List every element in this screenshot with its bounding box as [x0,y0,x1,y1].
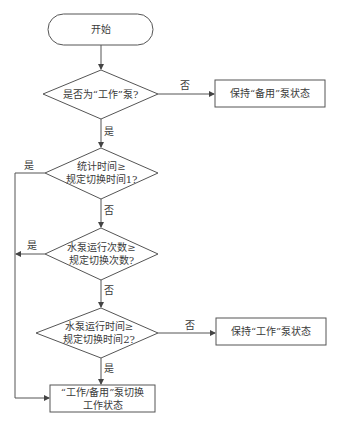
keep-working-label: 保持“工作”泵状态 [216,325,326,338]
run-count-line2: 规定切换次数? [45,254,158,267]
start-label: 开始 [48,23,153,36]
stat-time-line2: 规定切换时间1? [45,173,158,186]
stat-time-label: 统计时间≥ 规定切换时间1? [45,160,158,186]
switch-state-line1: “工作/备用”泵切换 [50,386,155,399]
edge-label-d3-yes: 是 [27,240,37,252]
run-time-label: 水泵运行时间≥ 规定切换时间2? [40,320,158,346]
is-working-pump-label: 是否为“工作”泵? [43,88,158,101]
run-time-line2: 规定切换时间2? [40,333,158,346]
edge-d2-yes [15,173,49,398]
run-count-label: 水泵运行次数≥ 规定切换次数? [45,241,158,267]
edge-label-d2-yes: 是 [24,160,34,172]
run-time-line1: 水泵运行时间≥ [40,320,158,333]
run-count-line1: 水泵运行次数≥ [45,241,158,254]
edge-label-d3-no: 否 [104,285,114,297]
switch-state-label: “工作/备用”泵切换 工作状态 [50,386,155,412]
edge-label-d4-yes: 是 [104,363,114,375]
flowchart-canvas [0,0,340,427]
edge-label-d1-yes: 是 [104,126,114,138]
keep-standby-label: 保持“备用”泵状态 [215,87,325,100]
edge-label-d2-no: 否 [104,205,114,217]
edge-label-d1-no: 否 [180,80,190,92]
switch-state-line2: 工作状态 [50,399,155,412]
edge-label-d4-no: 否 [185,320,195,332]
stat-time-line1: 统计时间≥ [45,160,158,173]
